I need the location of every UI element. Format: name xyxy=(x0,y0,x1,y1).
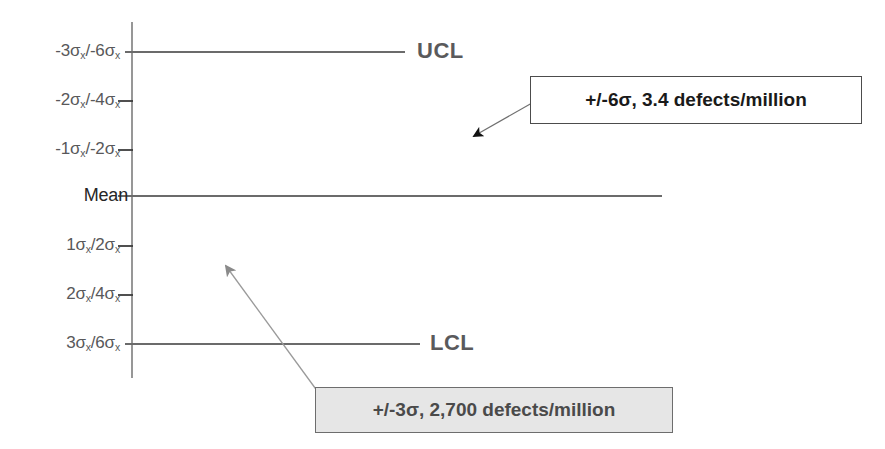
axis-label-mid: /6σ xyxy=(91,333,115,352)
axis-label-mid: /4σ xyxy=(91,284,115,303)
six-sigma-callout-text: +/-6σ, 3.4 defects/million xyxy=(585,89,807,111)
three-sigma-callout-text: +/-3σ, 2,700 defects/million xyxy=(373,399,616,421)
axis-label-sub: x xyxy=(86,243,91,255)
axis-label-plus-3-6: 3σx/6σx xyxy=(66,334,120,351)
axis-label-mid: /-4σ xyxy=(85,90,115,109)
axis-label-minus-1-2: -1σx/-2σx xyxy=(55,140,120,157)
six-sigma-callout-box: +/-6σ, 3.4 defects/million xyxy=(530,76,862,124)
axis-label-mid: /-2σ xyxy=(85,139,115,158)
axis-label-sub: x xyxy=(80,147,85,159)
three-sigma-callout-arrow xyxy=(226,266,318,392)
axis-label-sub2: x xyxy=(115,292,120,304)
axis-label-text: 2σ xyxy=(66,284,86,303)
axis-label-text: -2σ xyxy=(55,90,80,109)
axis-label-minus-2-4: -2σx/-4σx xyxy=(55,91,120,108)
axis-label-sub: x xyxy=(86,292,91,304)
axis-label-sub: x xyxy=(80,98,85,110)
ucl-label: UCL xyxy=(417,40,464,62)
axis-label-plus-2-4: 2σx/4σx xyxy=(66,285,120,302)
three-sigma-callout-box: +/-3σ, 2,700 defects/million xyxy=(315,387,673,433)
axis-label-text: -1σ xyxy=(55,139,80,158)
figure-canvas xyxy=(0,0,885,449)
axis-label-minus-3-6: -3σx/-6σx xyxy=(55,42,120,59)
axis-label-sub2: x xyxy=(115,147,120,159)
axis-label-sub2: x xyxy=(115,98,120,110)
normal-distribution-figure: -3σx/-6σx -2σx/-4σx -1σx/-2σx Mean 1σx/2… xyxy=(0,0,885,449)
lcl-label: LCL xyxy=(430,332,474,354)
axis-label-mean: Mean xyxy=(84,186,128,204)
axis-label-text: 3σ xyxy=(66,333,86,352)
axis-label-sub2: x xyxy=(115,243,120,255)
axis-label-mid: /2σ xyxy=(91,235,115,254)
axis-label-text: 1σ xyxy=(66,235,86,254)
axis-label-sub2: x xyxy=(115,49,120,61)
axis-label-plus-1-2: 1σx/2σx xyxy=(66,236,120,253)
six-sigma-callout-arrow xyxy=(474,103,532,136)
axis-label-sub: x xyxy=(80,49,85,61)
axis-label-text: Mean xyxy=(84,185,128,205)
axis-label-mid: /-6σ xyxy=(85,41,115,60)
axis-label-sub: x xyxy=(86,341,91,353)
axis-label-text: -3σ xyxy=(55,41,80,60)
axis-label-sub2: x xyxy=(115,341,120,353)
